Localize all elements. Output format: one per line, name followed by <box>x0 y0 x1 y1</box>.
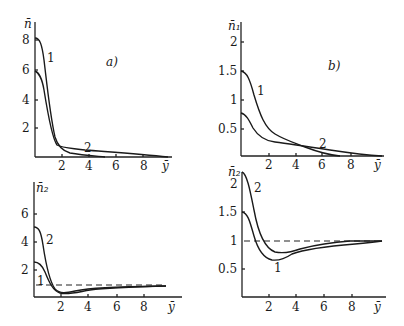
svg-text:1.5: 1.5 <box>218 64 237 78</box>
svg-text:8: 8 <box>140 300 148 314</box>
svg-text:4: 4 <box>84 300 92 314</box>
svg-text:1: 1 <box>230 234 238 248</box>
svg-text:0.5: 0.5 <box>218 262 237 276</box>
panel-label: b) <box>328 59 341 73</box>
svg-text:1: 1 <box>47 51 55 65</box>
x-axis-label: ȳ <box>373 300 381 314</box>
svg-text:4: 4 <box>292 300 300 314</box>
svg-text:4: 4 <box>85 159 93 173</box>
svg-text:2: 2 <box>230 35 238 49</box>
svg-text:6: 6 <box>320 300 328 314</box>
x-axis-label: ȳ <box>373 158 381 172</box>
svg-text:2: 2 <box>58 159 66 173</box>
curve-2 <box>35 71 168 157</box>
curve-1 <box>242 212 382 260</box>
panel-label: a) <box>106 55 118 69</box>
x-axis-label: ȳ <box>167 300 175 314</box>
svg-text:2: 2 <box>254 181 262 195</box>
svg-text:1.5: 1.5 <box>218 205 237 219</box>
svg-text:6: 6 <box>22 63 30 77</box>
svg-text:2: 2 <box>21 263 29 277</box>
svg-text:4: 4 <box>292 158 300 172</box>
curve-2 <box>242 172 382 253</box>
svg-text:4: 4 <box>21 235 29 249</box>
svg-text:0.5: 0.5 <box>218 122 237 136</box>
svg-text:8: 8 <box>348 300 356 314</box>
y-axis-label: n̄ <box>24 17 32 31</box>
svg-text:6: 6 <box>318 158 326 172</box>
panel-b-bottom: n̄₂ 2 1.5 1 0.5 2 4 6 8 ȳ 1 2 <box>218 165 386 314</box>
curve-2 <box>34 227 166 293</box>
panel-a-top: n̄ 8 6 4 2 2 4 6 8 ȳ 1 2 a) <box>22 17 172 173</box>
svg-text:6: 6 <box>112 159 120 173</box>
curve-1 <box>34 262 166 294</box>
svg-text:2: 2 <box>319 137 327 151</box>
svg-text:8: 8 <box>347 158 355 172</box>
svg-text:2: 2 <box>46 233 54 247</box>
figure-canvas: n̄ 8 6 4 2 2 4 6 8 ȳ 1 2 a) n̄₁ 2 1.5 1 … <box>0 0 404 326</box>
panel-a-bottom: n̄₂ 6 4 2 2 4 6 8 ȳ 1 2 <box>21 181 182 314</box>
svg-text:8: 8 <box>140 159 148 173</box>
svg-text:2: 2 <box>57 300 65 314</box>
svg-text:4: 4 <box>22 93 30 107</box>
svg-text:8: 8 <box>22 33 30 47</box>
svg-text:1: 1 <box>230 93 238 107</box>
panel-b-top: n̄₁ 2 1.5 1 0.5 2 4 6 8 ȳ 1 2 b) <box>218 19 384 172</box>
svg-text:1: 1 <box>257 84 265 98</box>
svg-text:1: 1 <box>274 261 282 275</box>
svg-text:2: 2 <box>22 121 30 135</box>
x-axis-label: ȳ <box>161 159 169 173</box>
svg-text:6: 6 <box>21 207 29 221</box>
svg-text:2: 2 <box>84 141 92 155</box>
svg-text:6: 6 <box>113 300 121 314</box>
svg-text:2: 2 <box>230 177 238 191</box>
svg-text:2: 2 <box>265 158 273 172</box>
svg-text:2: 2 <box>265 300 273 314</box>
svg-text:1: 1 <box>37 274 45 288</box>
y-axis-label: n̄₂ <box>36 181 49 195</box>
y-axis-label: n̄₁ <box>228 19 241 33</box>
